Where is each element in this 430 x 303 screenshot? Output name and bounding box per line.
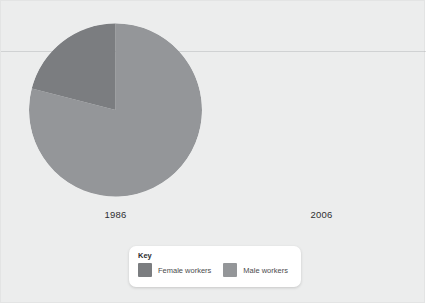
legend-items: Female workers Male workers bbox=[138, 263, 293, 277]
year-label-1986: 1986 bbox=[1, 209, 230, 220]
legend-item-male-workers: Male workers bbox=[223, 263, 288, 277]
pie-chart-1986 bbox=[29, 23, 202, 197]
year-label-2006: 2006 bbox=[207, 209, 430, 220]
legend-label-female-workers: Female workers bbox=[158, 266, 211, 275]
pie-svg-1986 bbox=[29, 23, 202, 197]
legend-swatch-female-workers-icon bbox=[138, 263, 152, 277]
legend-swatch-male-workers-icon bbox=[223, 263, 237, 277]
legend-item-female-workers: Female workers bbox=[138, 263, 211, 277]
legend-key-box: Key Female workers Male workers bbox=[129, 246, 301, 287]
legend-label-male-workers: Male workers bbox=[243, 266, 288, 275]
legend-title: Key bbox=[138, 251, 293, 260]
